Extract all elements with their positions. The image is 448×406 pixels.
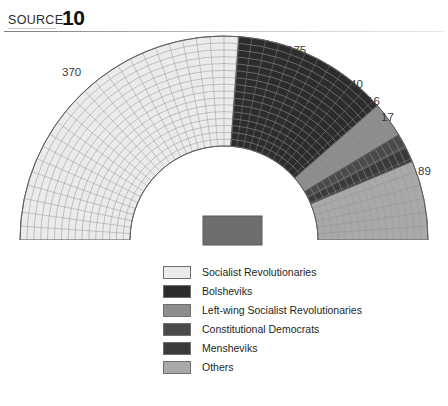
legend-item-left-wing-socialist-revolutionaries: Left-wing Socialist Revolutionaries bbox=[163, 301, 433, 320]
legend-swatch-icon-0 bbox=[163, 266, 191, 279]
value-label-socialist-revolutionaries: 370 bbox=[62, 66, 81, 78]
page-root: SOURCE 10 370 175 40 16 17 89 bbox=[0, 0, 448, 406]
legend-label-2: Left-wing Socialist Revolutionaries bbox=[202, 305, 362, 316]
value-label-left-wing-sr: 40 bbox=[350, 78, 363, 90]
legend-swatch-icon-5 bbox=[163, 361, 191, 374]
podium-rectangle bbox=[203, 216, 262, 245]
legend-label-3: Constitutional Democrats bbox=[202, 324, 319, 335]
legend-swatch-icon-2 bbox=[163, 304, 191, 317]
chart-legend: Socialist Revolutionaries Bolsheviks Lef… bbox=[163, 263, 433, 377]
legend-item-constitutional-democrats: Constitutional Democrats bbox=[163, 320, 433, 339]
legend-swatch-icon-3 bbox=[163, 323, 191, 336]
hemicycle-svg bbox=[0, 28, 448, 260]
value-label-constitutional-democrats: 16 bbox=[367, 95, 380, 107]
legend-label-5: Others bbox=[202, 362, 234, 373]
source-number: 10 bbox=[62, 6, 84, 30]
legend-label-4: Mensheviks bbox=[202, 343, 257, 354]
parliament-chart: 370 175 40 16 17 89 bbox=[0, 28, 448, 260]
legend-item-mensheviks: Mensheviks bbox=[163, 339, 433, 358]
legend-item-others: Others bbox=[163, 358, 433, 377]
arc-segment-0 bbox=[20, 36, 239, 240]
legend-item-socialist-revolutionaries: Socialist Revolutionaries bbox=[163, 263, 433, 282]
source-label: SOURCE bbox=[8, 13, 63, 27]
legend-label-1: Bolsheviks bbox=[202, 286, 252, 297]
value-label-others: 89 bbox=[418, 165, 431, 177]
value-label-bolsheviks: 175 bbox=[287, 44, 306, 56]
legend-swatch-icon-4 bbox=[163, 342, 191, 355]
value-label-mensheviks: 17 bbox=[381, 111, 394, 123]
legend-item-bolsheviks: Bolsheviks bbox=[163, 282, 433, 301]
legend-label-0: Socialist Revolutionaries bbox=[202, 267, 316, 278]
legend-swatch-icon-1 bbox=[163, 285, 191, 298]
